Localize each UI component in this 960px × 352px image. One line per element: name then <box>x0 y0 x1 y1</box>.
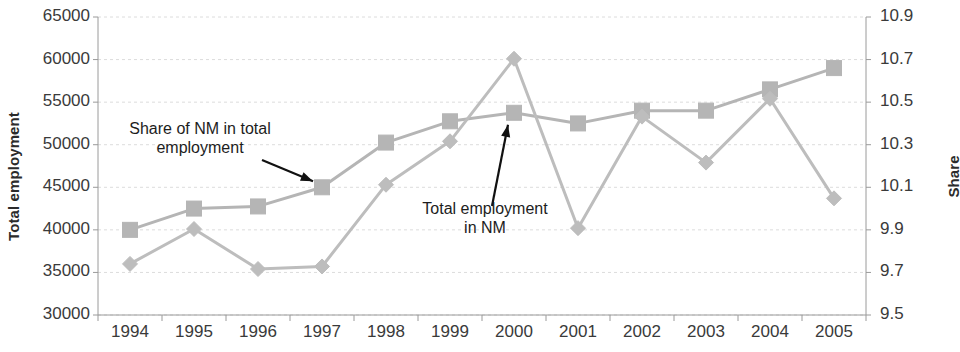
annotation-employment-note: Total employment in NM <box>390 200 580 238</box>
chart-figure: Total employment Share 30000350004000045… <box>0 0 960 352</box>
annotation-share-note: Share of NM in total employment <box>100 120 300 158</box>
series-layer <box>123 51 842 276</box>
plot-area <box>0 0 960 352</box>
gridlines <box>98 17 866 315</box>
axis-lines <box>93 17 871 321</box>
